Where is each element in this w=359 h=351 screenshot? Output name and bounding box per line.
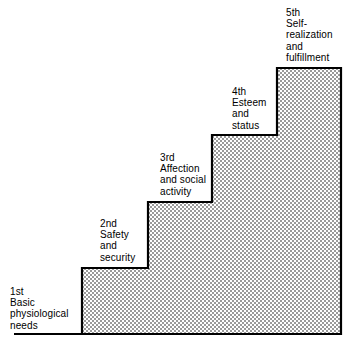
step-label-4-esteem-and-status: 4th Esteem and status [232, 86, 267, 131]
step-label-2-safety-and-security: 2nd Safety and security [100, 218, 135, 263]
step-label-3-affection-and-social-activity: 3rd Affection and social activity [160, 152, 206, 197]
step-label-5-self-realization-and-fulfillment: 5th Self- realization and fulfillment [286, 7, 333, 63]
hierarchy-of-needs-figure: 1st Basic physiological needs 2nd Safety… [0, 0, 359, 351]
step-label-1-basic-physiological-needs: 1st Basic physiological needs [10, 286, 69, 331]
staircase-fill [82, 68, 341, 334]
